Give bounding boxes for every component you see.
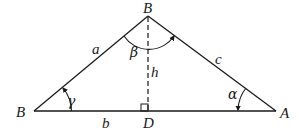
triangle-diagram: B B A D a c b h γ β α: [0, 0, 299, 134]
right-angle-marker: [141, 104, 148, 111]
altitude-label-h: h: [151, 64, 159, 80]
side-label-a: a: [92, 41, 100, 57]
angle-alpha-arc: [238, 88, 246, 110]
diagram-canvas: B B A D a c b h γ β α: [0, 0, 299, 134]
side-c-line: [148, 16, 276, 111]
vertex-label-left: B: [16, 104, 25, 120]
angle-label-gamma: γ: [67, 93, 76, 109]
vertex-label-top: B: [143, 0, 152, 16]
vertex-label-right: A: [279, 105, 290, 121]
side-label-b: b: [102, 115, 110, 131]
vertex-label-foot: D: [142, 115, 154, 131]
angle-label-alpha: α: [228, 86, 238, 102]
side-a-line: [34, 16, 148, 111]
angle-label-beta: β: [129, 44, 138, 60]
side-label-c: c: [215, 51, 222, 67]
